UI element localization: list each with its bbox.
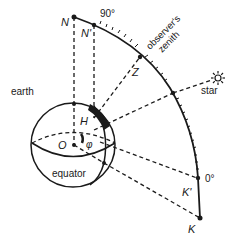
label-Kprime: K' xyxy=(182,186,192,198)
label-O: O xyxy=(58,139,67,151)
label-K: K xyxy=(188,223,196,235)
shaded-latitude-region xyxy=(88,104,110,130)
label-0-degrees: 0° xyxy=(205,173,215,184)
point-N xyxy=(72,15,77,20)
point-Kprime xyxy=(196,176,200,180)
label-equator: equator xyxy=(52,168,87,179)
label-Nprime: N' xyxy=(81,27,92,39)
star-icon xyxy=(211,71,225,85)
label-Z: Z xyxy=(131,66,140,78)
point-Nprime xyxy=(92,23,96,27)
label-N: N xyxy=(61,16,69,28)
label-earth: earth xyxy=(11,86,34,97)
label-H: H xyxy=(80,115,88,127)
label-90-degrees: 90° xyxy=(100,8,115,19)
celestial-latitude-diagram: N N' 90° observer's zenith Z star earth … xyxy=(0,0,235,245)
label-star: star xyxy=(201,85,218,96)
point-equator xyxy=(102,161,106,165)
point-pole xyxy=(72,102,76,106)
point-O xyxy=(72,143,76,147)
point-star-intersection xyxy=(171,91,175,95)
point-K xyxy=(198,216,203,221)
phi-angle-arc xyxy=(81,134,83,143)
label-phi: φ xyxy=(86,139,93,150)
point-Z xyxy=(138,55,142,59)
